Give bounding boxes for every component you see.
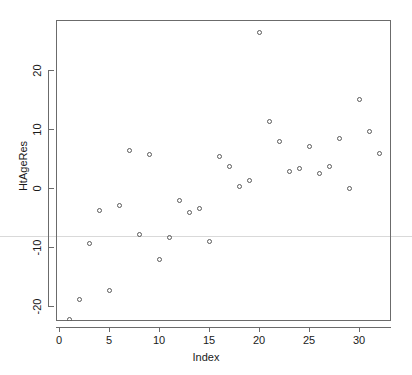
data-point [137, 232, 142, 237]
data-point [217, 154, 222, 159]
y-axis-tick-label: 0 [31, 180, 44, 198]
data-point [87, 241, 92, 246]
data-point [377, 151, 382, 156]
x-axis-tick-label: 15 [196, 334, 222, 347]
data-point [157, 257, 162, 262]
data-point [117, 203, 122, 208]
data-point [357, 97, 362, 102]
data-point [267, 119, 272, 124]
scatter-plot-figure: 051015202530 Index -20-1001020 HtAgeRes [0, 0, 412, 375]
data-point [247, 178, 252, 183]
y-axis-tick [49, 247, 54, 248]
y-axis-tick-label: 10 [31, 121, 44, 139]
data-point [227, 164, 232, 169]
y-axis-tick-label: -20 [31, 297, 44, 315]
x-axis-tick [159, 327, 160, 332]
x-axis-line [56, 327, 391, 328]
y-axis-tick [49, 306, 54, 307]
x-axis-tick [359, 327, 360, 332]
data-point [297, 166, 302, 171]
data-point [67, 317, 72, 321]
x-axis-tick-label: 10 [146, 334, 172, 347]
data-point [77, 297, 82, 302]
x-axis-tick [309, 327, 310, 332]
x-axis-tick [109, 327, 110, 332]
x-axis-title: Index [0, 351, 412, 363]
data-points-layer [56, 20, 391, 321]
x-axis-tick-label: 0 [46, 334, 72, 347]
data-point [107, 288, 112, 293]
x-axis-tick [259, 327, 260, 332]
data-point [347, 186, 352, 191]
data-point [97, 208, 102, 213]
x-axis-tick [209, 327, 210, 332]
y-axis-tick-label: -10 [31, 238, 44, 256]
x-axis-tick-label: 20 [246, 334, 272, 347]
data-point [277, 139, 282, 144]
data-point [207, 239, 212, 244]
y-axis-tick [49, 129, 54, 130]
data-point [237, 184, 242, 189]
data-point [197, 206, 202, 211]
y-axis-tick [49, 188, 54, 189]
data-point [337, 136, 342, 141]
data-point [307, 144, 312, 149]
data-point [327, 164, 332, 169]
data-point [367, 129, 372, 134]
data-point [187, 210, 192, 215]
data-point [177, 198, 182, 203]
x-axis-tick-label: 30 [346, 334, 372, 347]
data-point [287, 169, 292, 174]
y-axis-title: HtAgeRes [17, 116, 29, 216]
data-point [257, 30, 262, 35]
data-point [147, 152, 152, 157]
data-point [167, 235, 172, 240]
x-axis-tick-label: 5 [96, 334, 122, 347]
x-axis-tick [59, 327, 60, 332]
x-axis-tick-label: 25 [296, 334, 322, 347]
y-axis-tick [49, 70, 54, 71]
data-point [127, 148, 132, 153]
data-point [317, 171, 322, 176]
y-axis-tick-label: 20 [31, 62, 44, 80]
